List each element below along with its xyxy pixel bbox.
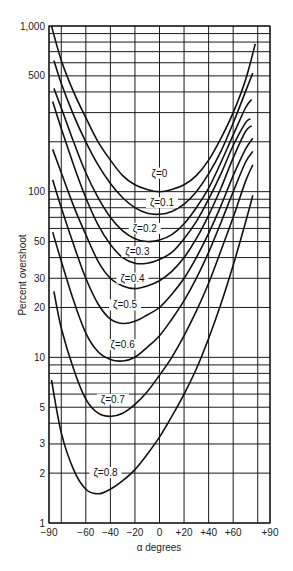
overshoot-chart: ζ=0ζ=0.1ζ=0.2ζ=0.3ζ=0.4ζ=0.5ζ=0.6ζ=0.7ζ=… xyxy=(0,0,293,571)
y-tick-label: 2 xyxy=(39,468,45,479)
curve-label: ζ=0.1 xyxy=(150,197,175,209)
y-tick-label: 30 xyxy=(34,273,46,284)
x-axis-title: α degrees xyxy=(137,542,182,553)
curve-zeta-0.8 xyxy=(52,195,253,493)
y-tick-label: 3 xyxy=(39,438,45,449)
x-tick-label: 0 xyxy=(157,527,163,538)
curve-label: ζ=0.7 xyxy=(101,394,126,406)
x-tick-label: +60 xyxy=(225,527,242,538)
x-tick-label: −90 xyxy=(41,527,58,538)
y-tick-label: 1,000 xyxy=(20,21,45,32)
y-tick-label: 100 xyxy=(28,186,45,197)
x-tick-label: −40 xyxy=(102,527,119,538)
curve-label: ζ=0.4 xyxy=(120,273,145,285)
curve-label: ζ=0.2 xyxy=(133,223,158,235)
curve-label: ζ=0.6 xyxy=(111,339,136,351)
x-tick-label: +40 xyxy=(200,527,217,538)
y-tick-label: 500 xyxy=(28,70,45,81)
x-tick-label: −20 xyxy=(126,527,143,538)
curve-label: ζ=0.3 xyxy=(125,246,150,258)
y-axis-title: Percent overshoot xyxy=(17,234,28,315)
x-tick-label: +90 xyxy=(262,527,279,538)
y-tick-label: 10 xyxy=(34,352,46,363)
x-axis-tick-labels: −90−60−40−200+20+40+60+90 xyxy=(41,527,279,538)
x-tick-label: +20 xyxy=(176,527,193,538)
curve-label: ζ=0.8 xyxy=(93,467,118,479)
x-tick-label: −60 xyxy=(77,527,94,538)
grid xyxy=(49,26,270,523)
y-tick-label: 50 xyxy=(34,236,46,247)
curve-label: ζ=0 xyxy=(152,168,168,180)
curve-zeta-0.3 xyxy=(53,102,251,264)
y-tick-label: 20 xyxy=(34,302,46,313)
figure-caption xyxy=(4,560,289,568)
y-tick-label: 5 xyxy=(39,402,45,413)
curve-label: ζ=0.5 xyxy=(113,299,138,311)
